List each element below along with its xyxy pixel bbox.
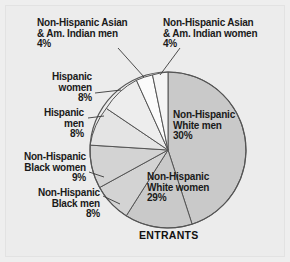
- slice-label-black-men: Non-Hispanic Black men 8%: [20, 188, 100, 220]
- leader-line-asian-women: [160, 48, 180, 75]
- slice-label-asian-women: Non-Hispanic Asian & Am. Indian women 4%: [163, 18, 285, 50]
- slice-label-white-women: Non-Hispanic White women 29%: [147, 172, 233, 204]
- slice-label-asian-men: Non-Hispanic Asian & Am. Indian men 4%: [37, 18, 147, 50]
- slice-label-white-men: Non-Hispanic White men 30%: [173, 110, 253, 142]
- chart-title: ENTRANTS: [139, 229, 199, 241]
- pie-chart-figure: Non-Hispanic Asian & Am. Indian men 4% N…: [0, 0, 290, 262]
- slice-label-black-women: Non-Hispanic Black women 9%: [6, 152, 86, 184]
- slice-label-hispanic-men: Hispanic men 8%: [12, 108, 84, 140]
- slice-label-hispanic-women: Hispanic women 8%: [20, 72, 92, 104]
- leader-line-asian-men: [118, 48, 144, 77]
